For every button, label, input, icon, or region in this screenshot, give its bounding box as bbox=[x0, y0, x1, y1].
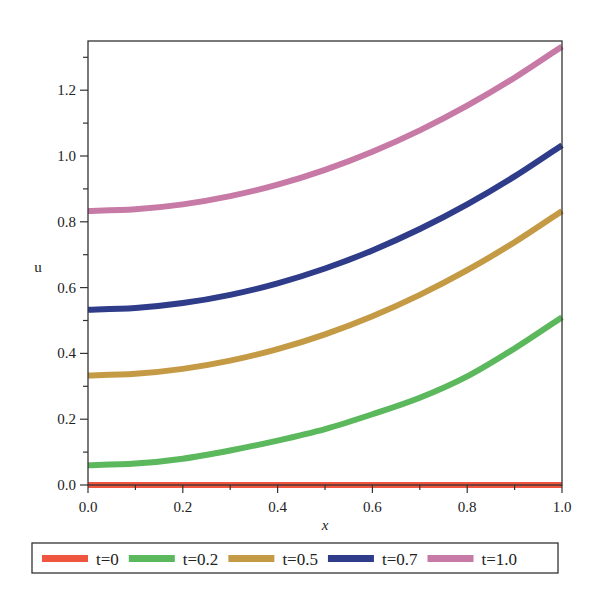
legend-label: t=0 bbox=[96, 550, 119, 569]
x-tick-label: 0.6 bbox=[363, 499, 382, 515]
x-tick-label: 0.0 bbox=[79, 499, 98, 515]
y-axis-title: u bbox=[34, 259, 42, 275]
legend-label: t=0.7 bbox=[382, 550, 418, 569]
legend-label: t=0.5 bbox=[282, 550, 318, 569]
legend-swatch bbox=[428, 555, 474, 562]
y-tick-label: 1.2 bbox=[57, 82, 76, 98]
legend-label: t=0.2 bbox=[183, 550, 219, 569]
legend-swatch bbox=[42, 555, 88, 562]
x-tick-label: 0.4 bbox=[268, 499, 287, 515]
x-tick-label: 0.8 bbox=[458, 499, 477, 515]
legend-label: t=1.0 bbox=[482, 550, 518, 569]
y-tick-label: 1.0 bbox=[57, 148, 76, 164]
legend-swatch bbox=[228, 555, 274, 562]
y-tick-label: 0.0 bbox=[57, 477, 76, 493]
y-tick-label: 0.8 bbox=[57, 214, 76, 230]
legend-swatch bbox=[129, 555, 175, 562]
y-tick-label: 0.4 bbox=[57, 345, 76, 361]
x-tick-label: 0.2 bbox=[173, 499, 192, 515]
chart-background bbox=[0, 0, 596, 607]
legend: t=0t=0.2t=0.5t=0.7t=1.0 bbox=[32, 543, 558, 573]
x-axis-title: x bbox=[321, 517, 329, 533]
line-chart: 0.00.20.40.60.81.01.2 0.00.20.40.60.81.0… bbox=[0, 0, 596, 607]
legend-swatch bbox=[328, 555, 374, 562]
y-tick-label: 0.2 bbox=[57, 411, 76, 427]
y-tick-label: 0.6 bbox=[57, 280, 76, 296]
x-tick-label: 1.0 bbox=[553, 499, 572, 515]
